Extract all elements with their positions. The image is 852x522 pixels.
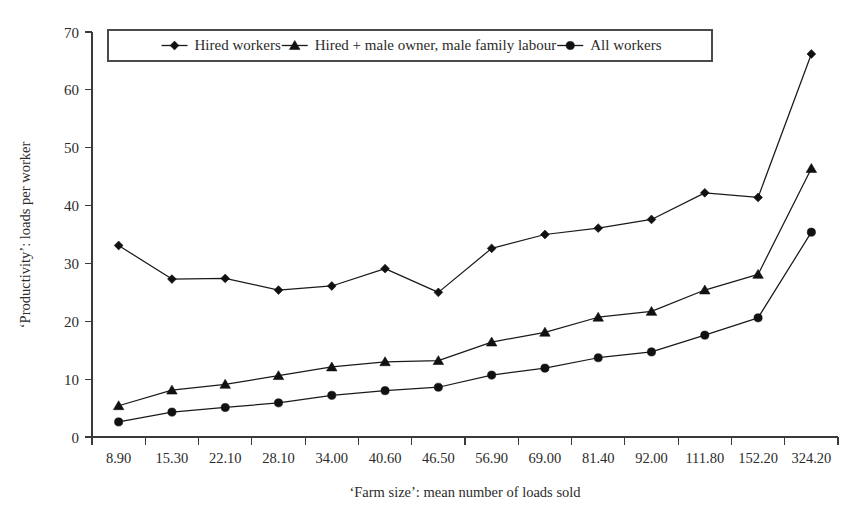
- chart-legend: Hired workersHired + male owner, male fa…: [108, 30, 712, 61]
- y-tick-label: 0: [72, 430, 80, 446]
- line-chart: 010203040506070 8.9015.3022.1028.1034.00…: [0, 0, 852, 522]
- data-point: [114, 241, 123, 250]
- legend-swatch-marker: [566, 41, 574, 49]
- data-point: [433, 356, 444, 365]
- x-tick-label: 324.20: [791, 450, 831, 466]
- data-point: [168, 408, 176, 416]
- data-point: [754, 193, 763, 202]
- x-tick-label: 22.10: [209, 450, 242, 466]
- data-point: [488, 371, 496, 379]
- series-line: [119, 169, 812, 406]
- data-point: [806, 164, 817, 173]
- series-3: [115, 228, 816, 426]
- data-point: [541, 364, 549, 372]
- series-1: [114, 50, 816, 297]
- data-point: [168, 275, 177, 284]
- legend-label: Hired workers: [195, 37, 281, 53]
- data-point: [115, 418, 123, 426]
- data-point: [541, 230, 550, 239]
- y-axis-title: ‘Productivity’: loads per worker: [17, 142, 33, 329]
- y-tick-label: 40: [64, 198, 79, 214]
- x-tick-label: 56.90: [475, 450, 508, 466]
- data-point: [274, 399, 282, 407]
- x-tick-label: 69.00: [529, 450, 562, 466]
- data-point: [754, 314, 762, 322]
- data-point: [647, 215, 656, 224]
- data-point: [594, 224, 603, 233]
- legend-label: All workers: [590, 37, 661, 53]
- x-tick-label: 111.80: [685, 450, 724, 466]
- x-tick-label: 92.00: [635, 450, 668, 466]
- y-tick-label: 30: [64, 256, 79, 272]
- series-2: [113, 164, 816, 410]
- legend-label: Hired + male owner, male family labour: [315, 37, 557, 53]
- x-tick-label: 28.10: [262, 450, 295, 466]
- y-tick-label: 10: [64, 372, 79, 388]
- data-point: [434, 383, 442, 391]
- data-point: [701, 331, 709, 339]
- series-layer: [113, 50, 816, 426]
- data-point: [328, 391, 336, 399]
- data-point: [700, 188, 709, 197]
- y-tick-label: 70: [64, 25, 79, 41]
- data-point: [327, 282, 336, 291]
- series-line: [119, 54, 812, 292]
- data-point: [647, 348, 655, 356]
- x-tick-label: 46.50: [422, 450, 455, 466]
- x-tick-label: 8.90: [106, 450, 131, 466]
- x-axis-title: ‘Farm size’: mean number of loads sold: [349, 484, 581, 500]
- y-tick-label: 60: [64, 82, 79, 98]
- y-axis: 010203040506070: [64, 25, 92, 446]
- x-tick-label: 15.30: [156, 450, 189, 466]
- x-tick-label: 34.00: [315, 450, 348, 466]
- data-point: [221, 274, 230, 283]
- data-point: [753, 269, 764, 278]
- data-point: [646, 306, 657, 315]
- data-point: [594, 354, 602, 362]
- legend-item-2[interactable]: Hired + male owner, male family labour: [282, 37, 557, 53]
- data-point: [807, 50, 816, 59]
- x-tick-label: 40.60: [369, 450, 402, 466]
- x-tick-label: 81.40: [582, 450, 615, 466]
- series-line: [119, 232, 812, 422]
- data-point: [221, 403, 229, 411]
- data-point: [274, 286, 283, 295]
- data-point: [807, 228, 815, 236]
- x-axis: 8.9015.3022.1028.1034.0040.6046.5056.906…: [92, 437, 838, 466]
- chart-container: 010203040506070 8.9015.3022.1028.1034.00…: [0, 0, 852, 522]
- y-tick-label: 20: [64, 314, 79, 330]
- data-point: [381, 264, 390, 273]
- data-point: [381, 387, 389, 395]
- x-tick-label: 152.20: [738, 450, 778, 466]
- y-tick-label: 50: [64, 140, 79, 156]
